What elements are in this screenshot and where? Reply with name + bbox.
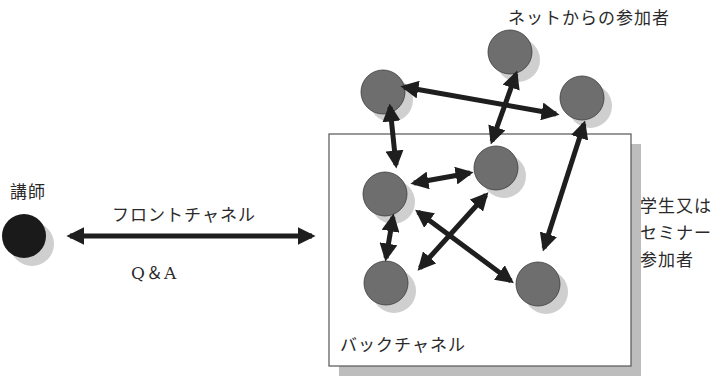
arrow-net1-net3 xyxy=(404,87,556,114)
net-participants-label: ネットからの参加者 xyxy=(508,7,670,29)
lecturer-node xyxy=(2,214,54,266)
students-label: 学生又は セミナー 参加者 xyxy=(640,193,712,274)
qa-label: Q＆A xyxy=(131,262,177,284)
front-channel-label: フロントチャネル xyxy=(112,204,256,226)
lecturer-label: 講師 xyxy=(10,181,46,203)
net-participant-node xyxy=(560,76,612,128)
net-participant-node xyxy=(361,70,413,122)
back-channel-label: バックチャネル xyxy=(340,334,466,356)
backchannel-diagram xyxy=(0,0,721,385)
